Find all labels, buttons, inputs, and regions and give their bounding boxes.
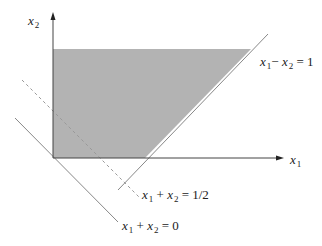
label-x1-plus-x2-eq-half: x1 + x2 = 1/2 (142, 188, 209, 204)
label-x1-plus-x2-eq-0: x1 + x2 = 0 (122, 219, 179, 235)
feasible-region (53, 49, 251, 158)
label-x1-minus-x2-eq-1: x1− x2 = 1 (260, 55, 314, 71)
x-axis-arrow-icon (276, 156, 284, 161)
diagram-canvas (0, 0, 322, 246)
y-axis-arrow-icon (51, 12, 56, 20)
x-axis-label: x1 (290, 153, 301, 169)
y-axis-label: x2 (28, 14, 39, 30)
